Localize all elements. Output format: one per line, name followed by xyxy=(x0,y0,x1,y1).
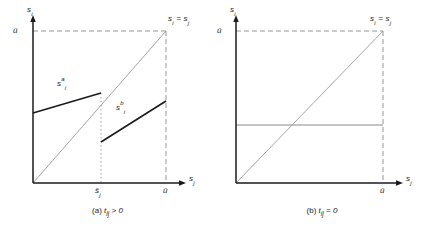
panel-a: si û sj šj û si = sj sai sbi (a) tij > 0 xyxy=(0,0,215,237)
panel-a-plot xyxy=(0,0,215,237)
y-axis-label-b: si xyxy=(230,6,236,14)
figure-container: si û sj šj û si = sj sai sbi (a) tij > 0 xyxy=(0,0,429,237)
y-tick-label-uhat-a: û xyxy=(13,27,18,35)
diagonal-label-a: si = sj xyxy=(168,15,189,23)
panel-a-caption: (a) tij > 0 xyxy=(0,207,215,217)
panel-b-plot xyxy=(215,0,429,237)
curve-label-a: sai xyxy=(57,80,66,88)
curve-segment-b xyxy=(101,101,166,142)
x-axis-arrow-a xyxy=(179,180,186,185)
curve-label-b: sbi xyxy=(116,104,125,112)
y-axis-label-a: si xyxy=(27,6,33,14)
x-tick-label-uhat-a: û xyxy=(163,187,168,195)
y-tick-label-uhat-b: û xyxy=(217,27,222,35)
panel-b-caption: (b) tij = 0 xyxy=(215,207,429,217)
panel-b: si û sj û si = sj (b) tij = 0 xyxy=(215,0,429,237)
x-tick-label-uhat-b: û xyxy=(380,187,385,195)
x-axis-arrow-b xyxy=(396,180,403,185)
diagonal-label-b: si = sj xyxy=(370,15,391,23)
curve-segment-a xyxy=(33,93,101,113)
x-axis-label-b: sj xyxy=(406,175,412,183)
x-axis-label-a: sj xyxy=(189,175,195,183)
x-tick-label-sbarj-a: šj xyxy=(95,187,101,195)
diagonal-line-b xyxy=(236,31,383,183)
